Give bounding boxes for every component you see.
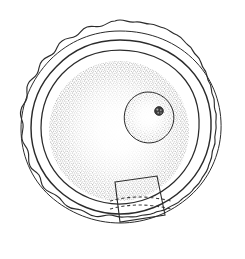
nucleolus xyxy=(155,107,164,116)
nucleus-group xyxy=(120,88,180,148)
figure-root: Ovum cross-section line drawing Outer wa… xyxy=(0,0,245,259)
ovum-diagram xyxy=(0,0,245,259)
nucleus-stipple xyxy=(120,88,180,148)
